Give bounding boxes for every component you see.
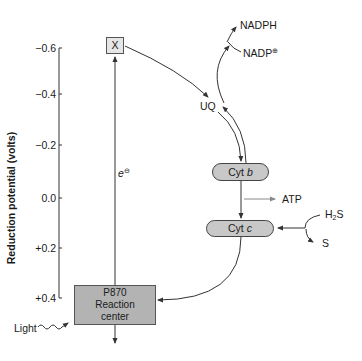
cyt-c-suffix: c bbox=[247, 222, 252, 234]
label-s: S bbox=[322, 237, 329, 249]
node-cyt-b: Cyt b bbox=[212, 163, 269, 181]
label-nadph: NADPH bbox=[240, 19, 277, 31]
y-axis bbox=[59, 48, 62, 298]
tick-0-0: 0.0 bbox=[16, 192, 56, 204]
node-cyt-c: Cyt c bbox=[206, 220, 274, 237]
label-nadp: NADP⊕ bbox=[243, 45, 278, 59]
rc-line-1: P870 bbox=[75, 287, 155, 299]
tick-pos-0-4: +0.4 bbox=[16, 292, 56, 304]
tick-neg-0-4: −0.4 bbox=[16, 88, 56, 100]
cyt-c-prefix: Cyt bbox=[228, 222, 247, 234]
rc-line-2: Reaction bbox=[75, 299, 155, 311]
arrow-uq-to-cytb bbox=[218, 112, 241, 161]
arrow-h2s-to-cytc bbox=[278, 215, 320, 228]
label-h2s: H2S bbox=[325, 208, 344, 224]
arrow-cytb-to-uq bbox=[223, 107, 246, 163]
light-wave-icon bbox=[38, 323, 68, 329]
node-p870-reaction-center: P870 Reaction center bbox=[74, 285, 156, 325]
diagram-lines bbox=[0, 0, 362, 361]
h2s-s: S bbox=[337, 208, 344, 220]
arrow-x-to-uq bbox=[125, 46, 208, 97]
h2s-h: H bbox=[325, 208, 333, 220]
label-atp: ATP bbox=[282, 193, 302, 205]
tick-pos-0-2: +0.2 bbox=[16, 242, 56, 254]
electron-charge: ⊖ bbox=[124, 167, 130, 174]
node-x: X bbox=[106, 37, 124, 54]
label-electron: e⊖ bbox=[118, 165, 130, 179]
tick-neg-0-2: −0.2 bbox=[16, 139, 56, 151]
nadp-charge: ⊕ bbox=[272, 47, 278, 54]
tick-neg-0-6: −0.6 bbox=[16, 42, 56, 54]
node-uq: UQ bbox=[200, 100, 216, 112]
label-light: Light bbox=[14, 322, 37, 334]
nadp-text: NADP bbox=[243, 47, 272, 59]
arrow-to-s bbox=[306, 229, 313, 242]
arrow-cytc-to-rc bbox=[158, 237, 241, 300]
arrow-to-nadph bbox=[217, 46, 229, 103]
cyt-b-suffix: b bbox=[247, 166, 253, 178]
rc-line-3: center bbox=[75, 311, 155, 323]
cyt-b-prefix: Cyt bbox=[228, 166, 247, 178]
nadp-branch bbox=[228, 42, 241, 52]
